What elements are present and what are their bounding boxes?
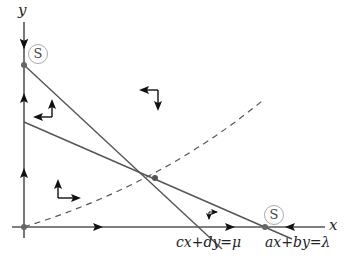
y-axis-label: y [18,1,26,19]
fixed-point-origin [21,224,27,230]
line-mu-label: cx+dy=μ [176,234,241,250]
fixed-point-x-axis [262,224,268,230]
x-axis-label: x [329,216,337,234]
line-mu [24,65,222,249]
direction-arrow-small [209,212,217,219]
stability-label-y-axis: S [28,44,48,64]
fixed-point-interior [152,175,158,181]
stability-label-x-axis: S [264,205,284,225]
direction-arrow-upper-left [38,104,52,117]
direction-arrow-lower-left [58,184,76,198]
line-lambda [24,122,292,239]
phase-plane-diagram [0,0,348,262]
direction-arrow-upper-middle [144,90,158,106]
dashed-nullcline [24,101,262,227]
line-lambda-label: ax+by=λ [265,234,330,250]
fixed-point-y-axis [21,62,27,68]
